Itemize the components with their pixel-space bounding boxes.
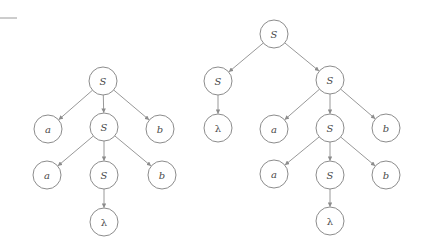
tree-node: S	[90, 161, 118, 189]
left-derivation-tree-edges	[58, 90, 151, 208]
node-label: S	[271, 29, 278, 40]
node-label: λ	[101, 217, 108, 228]
tree-node: a	[34, 115, 62, 143]
tree-node: b	[148, 161, 176, 189]
edge-arrow	[58, 136, 93, 166]
tree-node: b	[372, 161, 400, 189]
edge-arrow	[229, 43, 263, 72]
edge-arrow	[59, 90, 93, 119]
node-label: b	[383, 170, 389, 181]
edge-arrow	[341, 89, 375, 119]
node-label: S	[101, 170, 108, 181]
tree-node: a	[33, 161, 61, 189]
edge-arrow	[285, 89, 320, 119]
node-label: S	[215, 76, 222, 87]
derivation-trees-diagram: SaSbaSbλSSSλaSbaSbλ	[0, 0, 421, 249]
right-derivation-tree-edges	[218, 43, 375, 207]
node-label: λ	[215, 123, 222, 134]
tree-node: S	[316, 66, 344, 94]
node-label: S	[327, 170, 334, 181]
tree-node: S	[260, 20, 288, 48]
tree-node: a	[260, 115, 288, 143]
node-label: S	[100, 76, 107, 87]
tree-node: S	[316, 114, 344, 142]
tree-node: S	[316, 161, 344, 189]
tree-node: λ	[316, 207, 344, 235]
tree-node: S	[204, 67, 232, 95]
node-label: S	[327, 75, 334, 86]
node-label: λ	[327, 216, 334, 227]
node-label: b	[383, 123, 389, 134]
right-derivation-tree: SSSλaSbaSbλ	[204, 20, 400, 235]
tree-node: S	[90, 113, 118, 141]
node-label: a	[44, 170, 50, 181]
edge-arrow	[341, 137, 375, 166]
nodes-layer: SaSbaSbλSSSλaSbaSbλ	[33, 20, 400, 236]
tree-node: b	[372, 114, 400, 142]
tree-node: b	[146, 115, 174, 143]
edge-arrow	[114, 90, 149, 120]
tree-node: S	[89, 67, 117, 95]
edge-arrow	[285, 137, 319, 165]
node-label: b	[157, 124, 163, 135]
node-label: b	[159, 170, 165, 181]
node-label: a	[45, 124, 51, 135]
tree-node: λ	[204, 114, 232, 142]
tree-node: a	[260, 160, 288, 188]
tree-node: λ	[90, 208, 118, 236]
edge-arrow	[285, 43, 319, 71]
node-label: S	[327, 123, 334, 134]
left-derivation-tree: SaSbaSbλ	[33, 67, 176, 236]
node-label: a	[271, 169, 277, 180]
node-label: S	[101, 122, 108, 133]
edge-arrow	[115, 136, 151, 166]
node-label: a	[271, 124, 277, 135]
